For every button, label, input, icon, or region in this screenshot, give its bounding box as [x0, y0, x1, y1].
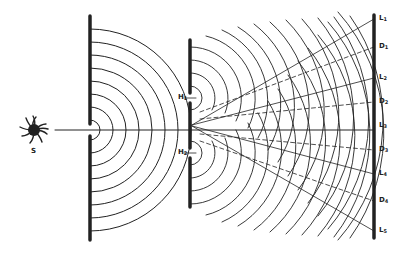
screen-label-d1: D1 — [379, 43, 388, 50]
interference-diagram — [0, 0, 408, 256]
source-label: S — [31, 148, 36, 155]
slit-label-h2: H2 — [178, 149, 187, 156]
slit-label-h1: H1 — [178, 94, 187, 101]
wavefronts-h1 — [190, 16, 383, 240]
screen-label-d4: D4 — [379, 197, 388, 204]
fringe-lines — [192, 19, 374, 231]
wavefronts-h2 — [190, 12, 384, 238]
screen-label-l3: L3 — [379, 122, 387, 129]
screen-label-l5: L5 — [379, 227, 387, 234]
light-source-icon — [20, 116, 48, 143]
screen-label-l1: L1 — [379, 15, 387, 22]
screen-label-l2: L2 — [379, 74, 387, 81]
screen-label-l4: L4 — [379, 170, 387, 177]
screen-label-d3: D3 — [379, 146, 388, 153]
screen-label-d2: D2 — [379, 98, 388, 105]
